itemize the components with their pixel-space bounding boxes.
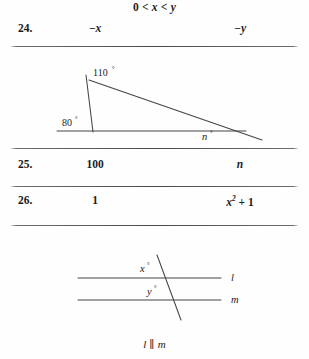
divider-rule-1 xyxy=(10,46,299,47)
triangle-angle-80-label: 80 xyxy=(62,117,72,128)
row-26-column-b: x2 + 1 xyxy=(200,194,280,208)
triangle-figure: 110 ° 80 ° n ° xyxy=(0,60,309,148)
parallel-lines-figure: x ° y ° l m xyxy=(0,250,309,330)
angle-y-degree-icon: ° xyxy=(154,284,157,291)
triangle-left-side xyxy=(86,75,93,132)
divider-rule-4 xyxy=(10,225,299,226)
row-number-25: 25. xyxy=(18,158,32,170)
angle-y-label: y xyxy=(146,286,152,297)
parallel-caption: l∥m xyxy=(0,338,309,351)
triangle-angle-110-degree-icon: ° xyxy=(112,65,115,72)
caption-line-m: m xyxy=(158,338,166,350)
angle-x-label: x xyxy=(139,263,145,274)
transversal-line xyxy=(157,255,181,320)
parallel-symbol-icon: ∥ xyxy=(146,338,158,350)
row-24-column-b: −y xyxy=(200,22,280,34)
divider-rule-2 xyxy=(10,148,299,149)
condition-header: 0 < x < y xyxy=(0,1,309,13)
worksheet-page: 0 < x < y 24. −x −y 110 ° 80 ° n ° 25. 1… xyxy=(0,0,309,359)
triangle-angle-80-degree-icon: ° xyxy=(75,115,78,122)
row-24-column-a: −x xyxy=(55,22,135,34)
condition-text: 0 < x < y xyxy=(133,1,176,13)
triangle-angle-110-label: 110 xyxy=(93,67,108,78)
triangle-angle-n-label: n xyxy=(202,131,207,142)
row-26-column-a: 1 xyxy=(55,194,135,206)
angle-x-degree-icon: ° xyxy=(147,261,150,268)
line-l-label: l xyxy=(231,272,234,283)
row-number-24: 24. xyxy=(18,22,32,34)
triangle-angle-n-degree-icon: ° xyxy=(210,129,213,136)
row-25-column-b: n xyxy=(200,158,280,170)
row-25-column-a: 100 xyxy=(55,158,135,170)
row-number-26: 26. xyxy=(18,194,32,206)
divider-rule-3 xyxy=(10,186,299,187)
line-m-label: m xyxy=(231,294,239,305)
